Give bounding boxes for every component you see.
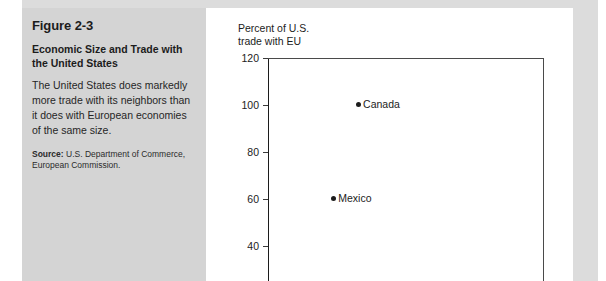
y-tick-label: 40 [247,240,259,252]
figure-container: Figure 2-3 Economic Size and Trade with … [0,0,606,281]
plot-frame-top [268,58,544,59]
chart-panel: Percent of U.S. trade with EU 120 100 80… [222,8,573,281]
plot-area: 120 100 80 60 40 Canada [268,58,544,281]
y-axis-line [268,58,269,281]
right-gray-band [573,0,598,281]
source-label: Source: [32,149,64,159]
y-tick-label: 120 [241,52,259,64]
y-tick-label: 80 [247,146,259,158]
y-tick-mark [263,199,268,200]
figure-caption-panel: Figure 2-3 Economic Size and Trade with … [22,8,206,281]
data-point-label: Mexico [338,192,371,204]
y-tick-mark [263,152,268,153]
y-tick-label: 100 [241,99,259,111]
data-point-label: Canada [363,98,400,110]
figure-description: The United States does markedly more tra… [32,78,193,139]
y-tick-label: 60 [247,193,259,205]
figure-title: Economic Size and Trade with the United … [32,42,193,70]
data-point-marker [331,196,336,201]
y-axis-label: Percent of U.S. trade with EU [238,22,309,48]
y-tick-mark [263,58,268,59]
top-gray-band [22,0,598,8]
plot-frame-right [543,58,544,281]
y-tick-mark [263,105,268,106]
y-tick-mark [263,246,268,247]
figure-number: Figure 2-3 [32,19,193,33]
data-point-marker [356,102,361,107]
figure-source: Source: U.S. Department of Commerce, Eur… [32,149,193,173]
